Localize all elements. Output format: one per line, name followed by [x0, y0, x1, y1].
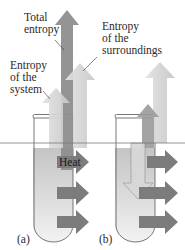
- label-line: Entropy: [10, 59, 47, 71]
- label-line: system: [10, 83, 47, 95]
- label-panel-a: (a): [17, 233, 30, 245]
- label-line: Total: [24, 11, 59, 23]
- label-line: surroundings: [102, 44, 162, 56]
- label-heat: Heat: [59, 156, 81, 168]
- label-line: of the: [10, 71, 47, 83]
- label-panel-b: (b): [99, 233, 112, 245]
- label-entropy-system: Entropy of the system: [10, 59, 47, 95]
- leader-surroundings: [83, 57, 97, 71]
- label-line: of the: [102, 32, 162, 44]
- label-entropy-surroundings: Entropy of the surroundings: [102, 20, 162, 56]
- label-line: Entropy: [102, 20, 162, 32]
- label-line: entropy: [24, 23, 59, 35]
- label-total-entropy: Total entropy: [24, 11, 59, 35]
